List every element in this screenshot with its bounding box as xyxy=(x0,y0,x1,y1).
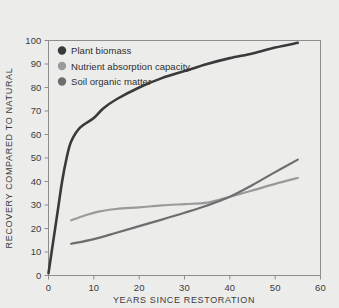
x-tick-label: 60 xyxy=(315,282,326,293)
y-tick-label: 10 xyxy=(31,246,42,257)
x-tick-label: 50 xyxy=(270,282,281,293)
x-tick-label: 40 xyxy=(224,282,235,293)
legend-label-0: Plant biomass xyxy=(71,45,132,56)
x-tick-label: 20 xyxy=(134,282,145,293)
series-line-soil-organic-matter xyxy=(71,160,298,244)
chart-legend: Plant biomassNutrient absorption capacit… xyxy=(58,45,191,87)
y-axis-title: RECOVERY COMPARED TO NATURAL xyxy=(4,68,14,249)
y-tick-label: 40 xyxy=(31,176,42,187)
y-tick-label: 0 xyxy=(36,270,41,281)
series-line-nutrient-absorption-capacity xyxy=(71,178,298,220)
x-tick-label: 30 xyxy=(179,282,190,293)
y-tick-label: 30 xyxy=(31,199,42,210)
x-axis-title: YEARS SINCE RESTORATION xyxy=(113,295,255,305)
y-tick-label: 80 xyxy=(31,82,42,93)
legend-label-2: Soil organic matter xyxy=(71,76,151,87)
legend-marker-2 xyxy=(58,77,66,85)
legend-marker-0 xyxy=(58,46,66,54)
y-tick-label: 100 xyxy=(25,35,41,46)
y-tick-label: 50 xyxy=(31,152,42,163)
y-axis-ticks xyxy=(45,41,49,276)
x-axis-tick-labels: 0102030405060 xyxy=(46,282,326,293)
y-axis-tick-labels: 0102030405060708090100 xyxy=(25,35,41,281)
x-axis-ticks xyxy=(49,276,321,280)
y-tick-label: 20 xyxy=(31,223,42,234)
x-tick-label: 0 xyxy=(46,282,51,293)
x-tick-label: 10 xyxy=(88,282,99,293)
chart-canvas: 0102030405060708090100 0102030405060 Pla… xyxy=(0,0,339,308)
y-tick-label: 70 xyxy=(31,105,42,116)
legend-marker-1 xyxy=(58,62,66,70)
legend-label-1: Nutrient absorption capacity xyxy=(71,61,190,72)
recovery-line-chart: 0102030405060708090100 0102030405060 Pla… xyxy=(0,0,339,308)
y-tick-label: 60 xyxy=(31,129,42,140)
y-tick-label: 90 xyxy=(31,58,42,69)
